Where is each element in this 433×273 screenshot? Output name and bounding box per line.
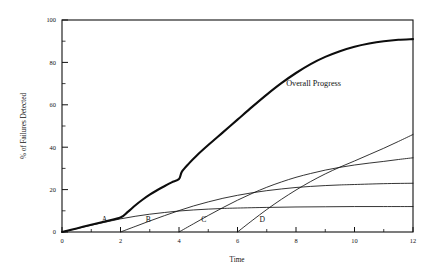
y-tick-label-5: 100	[46, 16, 56, 23]
x-tick-label-5: 10	[351, 237, 357, 244]
x-axis-tick-labels: 024681012	[60, 237, 416, 244]
y-axis-title: % of Failures Detected	[20, 93, 28, 159]
y-tick-label-2: 40	[50, 144, 56, 151]
x-axis-title: Time	[230, 256, 245, 264]
chart-annotations: Overall Progress	[286, 79, 341, 88]
curve-label-d: D	[260, 215, 266, 224]
failure-detection-line-chart: 024681012 020406080100 Time % of Failure…	[0, 0, 433, 273]
curve-label-c: C	[201, 215, 206, 224]
x-tick-label-6: 12	[410, 237, 416, 244]
x-tick-label-0: 0	[60, 237, 63, 244]
curve-c	[179, 158, 413, 232]
annotation-0: Overall Progress	[286, 79, 341, 88]
x-tick-label-1: 2	[119, 237, 122, 244]
curve-label-b: B	[146, 215, 151, 224]
x-tick-label-2: 4	[177, 237, 181, 244]
y-axis-tick-labels: 020406080100	[46, 16, 56, 235]
curve-overall-progress	[62, 39, 413, 232]
y-tick-label-1: 20	[50, 186, 56, 193]
x-tick-label-4: 8	[294, 237, 297, 244]
data-curves	[62, 39, 413, 232]
y-tick-label-0: 0	[53, 228, 56, 235]
curve-labels: ABCD	[102, 215, 266, 224]
curve-label-a: A	[102, 215, 108, 224]
x-tick-label-3: 6	[236, 237, 239, 244]
chart-figure: 024681012 020406080100 Time % of Failure…	[0, 0, 433, 273]
y-tick-label-4: 80	[50, 59, 56, 66]
x-axis-major-ticks	[62, 227, 413, 232]
y-tick-label-3: 60	[50, 101, 56, 108]
